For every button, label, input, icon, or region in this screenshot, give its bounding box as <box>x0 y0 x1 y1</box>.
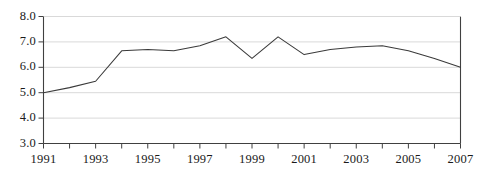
data-series-line <box>44 37 461 93</box>
x-axis-tick-label: 1991 <box>22 152 66 167</box>
x-axis-tick-label: 2007 <box>439 152 479 167</box>
y-axis-tick-label: 7.0 <box>2 34 36 49</box>
x-axis-tick-label: 2005 <box>386 152 430 167</box>
x-axis-tick-label: 1997 <box>178 152 222 167</box>
y-axis-tick-label: 5.0 <box>2 85 36 100</box>
line-chart: 8.07.06.05.04.03.0 199119931995199719992… <box>0 0 479 182</box>
y-axis-tick-label: 8.0 <box>2 9 36 24</box>
x-axis-tick-label: 2001 <box>282 152 326 167</box>
x-axis-ticks <box>44 144 461 149</box>
series-polyline <box>44 37 461 93</box>
x-axis-tick-label: 1995 <box>126 152 170 167</box>
plot-frame <box>44 17 461 144</box>
y-axis-ticks <box>39 17 44 144</box>
y-axis-tick-label: 6.0 <box>2 59 36 74</box>
y-axis-tick-label: 4.0 <box>2 110 36 125</box>
x-axis-tick-label: 1993 <box>74 152 118 167</box>
x-axis-tick-label: 1999 <box>230 152 274 167</box>
y-axis-tick-label: 3.0 <box>2 136 36 151</box>
gridlines <box>44 17 461 119</box>
x-axis-tick-label: 2003 <box>334 152 378 167</box>
